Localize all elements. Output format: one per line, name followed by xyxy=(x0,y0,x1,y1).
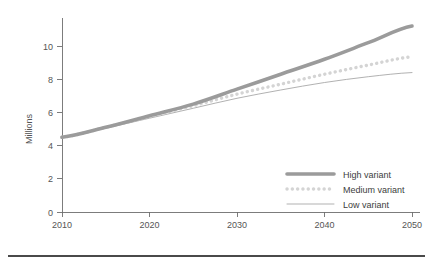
population-projection-chart: 0 2 4 6 8 10 2010 2020 2030 2040 2050 Mi… xyxy=(0,0,433,265)
y-tick-label: 4 xyxy=(48,141,53,151)
y-tick-label: 10 xyxy=(43,42,53,52)
series-line-low-variant xyxy=(62,73,412,138)
y-tick-label: 6 xyxy=(48,108,53,118)
x-tick-marks xyxy=(62,212,412,217)
y-axis-title: Millions xyxy=(24,114,34,145)
x-tick-label: 2020 xyxy=(139,220,159,230)
x-tick-label: 2010 xyxy=(52,220,72,230)
y-tick-label: 0 xyxy=(48,208,53,218)
y-tick-marks xyxy=(57,46,62,212)
y-tick-label: 2 xyxy=(48,174,53,184)
y-tick-label: 8 xyxy=(48,75,53,85)
chart-figure: 0 2 4 6 8 10 2010 2020 2030 2040 2050 Mi… xyxy=(0,0,433,265)
legend-label-high-variant: High variant xyxy=(343,170,392,180)
y-tick-labels: 0 2 4 6 8 10 xyxy=(43,42,53,218)
legend-label-medium-variant: Medium variant xyxy=(343,185,405,195)
x-tick-label: 2050 xyxy=(402,220,422,230)
series-line-high-variant xyxy=(62,26,412,137)
x-tick-labels: 2010 2020 2030 2040 2050 xyxy=(52,220,422,230)
x-tick-label: 2040 xyxy=(314,220,334,230)
x-tick-label: 2030 xyxy=(227,220,247,230)
legend-label-low-variant: Low variant xyxy=(343,200,390,210)
chart-legend: High variant Medium variant Low variant xyxy=(287,170,405,210)
